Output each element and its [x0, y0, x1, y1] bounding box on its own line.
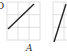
panel-a-label: A	[26, 44, 33, 53]
graphs	[0, 0, 67, 56]
cropped-label: D	[0, 2, 4, 11]
panel-a-line	[8, 4, 34, 29]
panel-a	[7, 2, 40, 40]
figure: D A	[0, 0, 67, 56]
